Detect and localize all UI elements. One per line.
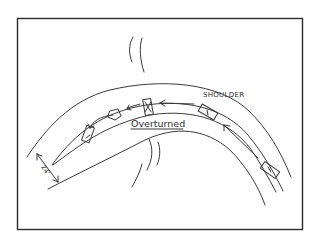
- label-shoulder: SHOULDER: [203, 91, 244, 99]
- road-shoulder-edge: [52, 103, 283, 191]
- diagram-svg: SHOULDER Overturned 24': [0, 0, 317, 241]
- road-inner-edge: [48, 131, 265, 205]
- label-overturned: Overturned: [131, 118, 185, 129]
- vehicle-rolling: [108, 109, 121, 120]
- vehicle-approaching-lower-right: [260, 162, 279, 179]
- accident-diagram: SHOULDER Overturned 24': [0, 0, 317, 241]
- road-outer-edge: [27, 84, 291, 177]
- vehicle-overturned: [143, 98, 154, 115]
- label-road-width: 24': [39, 164, 51, 177]
- top-skid-marks: [130, 37, 145, 72]
- bottom-skid-marks: [132, 139, 160, 187]
